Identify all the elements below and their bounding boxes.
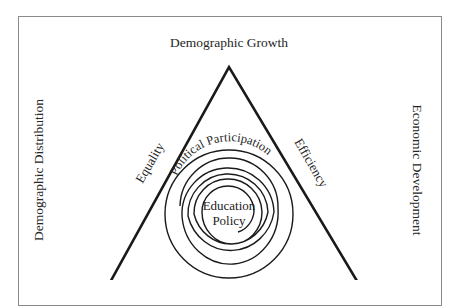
demographic-distribution-label: Demographic Distribution [31,99,47,241]
core-label-line1: Education [203,198,256,213]
education-policy-label: Education Policy [203,198,256,228]
core-label-line2: Policy [203,213,256,228]
demographic-growth-label: Demographic Growth [0,35,458,51]
economic-development-label: Economic Development [409,105,425,236]
